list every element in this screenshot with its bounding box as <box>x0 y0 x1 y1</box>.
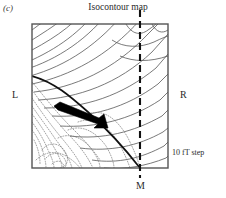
legend-contour-step: 10 fT step <box>172 148 204 157</box>
figure-title: Isocontour map <box>0 2 226 12</box>
label-midline: M <box>136 180 145 191</box>
label-left: L <box>12 89 18 100</box>
plot-frame <box>32 24 168 168</box>
isocontour-figure: (c) Isocontour map <box>0 0 226 198</box>
contour-plot-canvas <box>0 0 226 198</box>
label-right: R <box>180 89 187 100</box>
negative-contour-group <box>32 82 140 168</box>
